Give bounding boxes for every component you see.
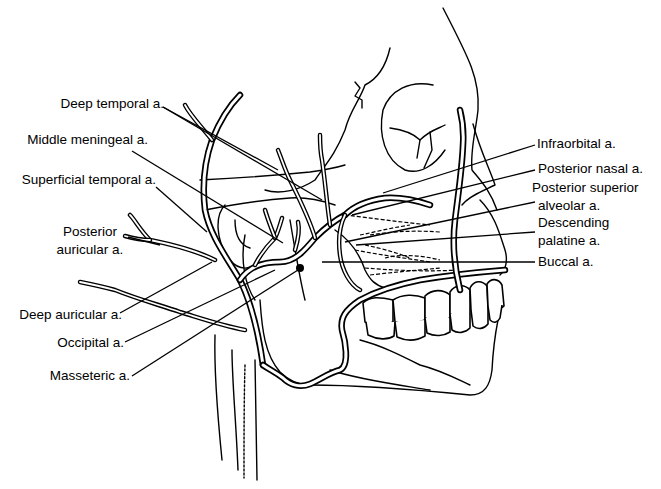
label-descending-palatine-line1: Descending [538,215,609,231]
label-posterior-auricular-line1: Posterior [45,224,135,240]
label-masseteric: Masseteric a. [20,368,130,384]
label-posterior-auricular-line2: auricular a. [45,242,135,258]
label-deep-temporal: Deep temporal a. [30,96,164,112]
label-buccal: Buccal a. [538,254,594,270]
label-posterior-nasal: Posterior nasal a. [538,161,643,177]
minor-branches [360,225,440,275]
label-posterior-superior-alveolar-line1: Posterior superior [532,180,639,196]
label-occipital: Occipital a. [30,335,124,351]
label-superficial-temporal: Superficial temporal a. [0,172,156,188]
anatomy-figure: Deep temporal a. Middle meningeal a. Sup… [0,0,661,489]
label-descending-palatine-line2: palatine a. [538,233,600,249]
label-infraorbital: Infraorbital a. [537,136,616,152]
label-middle-meningeal: Middle meningeal a. [0,132,148,148]
skull-outline [200,8,506,480]
label-posterior-superior-alveolar-line2: alveolar a. [538,198,600,214]
label-deep-auricular: Deep auricular a. [0,307,122,323]
